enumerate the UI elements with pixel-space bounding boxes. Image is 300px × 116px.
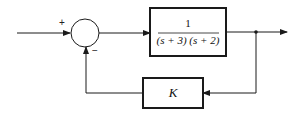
gain-k-label: K [143,85,203,101]
plus-sign: + [59,17,65,28]
summing-junction [71,19,99,47]
transfer-function-numerator: 1 [150,17,226,29]
minus-sign: − [92,45,98,56]
block-diagram: + − 1 (s + 3) (s + 2) K [0,0,300,116]
transfer-function-denominator: (s + 3) (s + 2) [150,34,226,46]
forward-block [150,8,226,56]
